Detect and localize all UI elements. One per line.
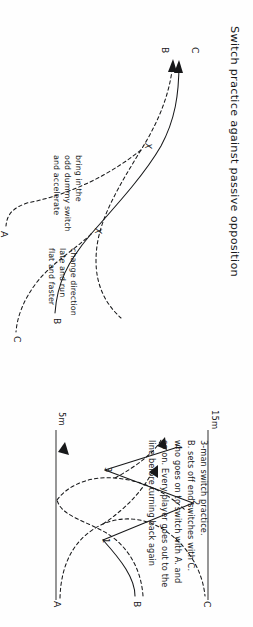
dash-loop-a	[60, 519, 205, 598]
bottom-label-c: C	[202, 601, 213, 608]
sequence-number-3: 3	[103, 467, 113, 472]
sequence-number-1: 1	[101, 538, 111, 543]
diagram-page: Switch practice against passive oppositi…	[0, 0, 253, 627]
arrowhead-exit-bottom	[58, 442, 69, 455]
sequence-number-4: 4	[173, 444, 183, 449]
label-5m: 5m	[57, 412, 67, 426]
dash-loop-c	[57, 478, 185, 510]
solid-seg-3-4	[105, 448, 175, 470]
bottom-diagram-lines	[0, 0, 253, 627]
label-15m: 15m	[210, 410, 220, 429]
dash-loop-b	[57, 500, 143, 596]
rotated-canvas: Switch practice against passive oppositi…	[0, 0, 253, 627]
arrowhead-exit-mid	[149, 465, 158, 478]
arrowhead-exit-top	[157, 437, 167, 450]
sequence-number-2: 2	[191, 500, 201, 505]
solid-seg-1-2	[103, 503, 193, 540]
bottom-label-b: B	[132, 601, 143, 608]
bottom-label-a: A	[52, 601, 63, 608]
solid-seg-2-3	[105, 470, 193, 503]
solid-seg-b-1	[103, 540, 135, 596]
